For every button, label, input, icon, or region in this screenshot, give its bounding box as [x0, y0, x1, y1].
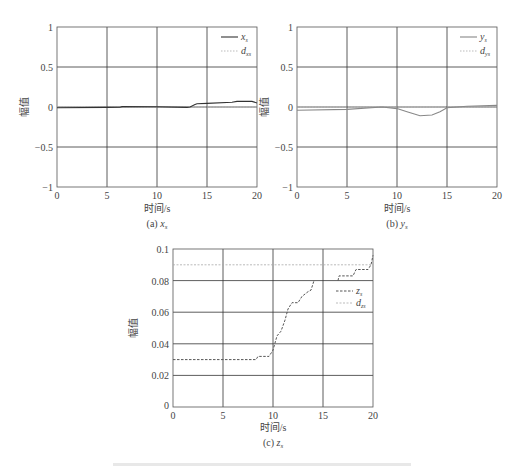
- svg-text:10: 10: [152, 190, 162, 201]
- legend-entry-d-xs: dxs: [241, 45, 252, 57]
- svg-text:−1: −1: [282, 182, 293, 193]
- caption-b: (b) ys: [386, 218, 408, 231]
- y-ticks-b: 1 0.5 0 −0.5 −1: [275, 22, 293, 193]
- panel-c: 0.1 0.08 0.06 0.04 0.02 0 0 5 10 15 20 时…: [127, 244, 378, 450]
- y-axis-label-b: 幅值: [258, 97, 270, 117]
- legend-entry-x-s: xs: [240, 31, 248, 43]
- svg-text:0: 0: [164, 400, 169, 411]
- figure-caption-faded: [113, 463, 411, 466]
- svg-text:0: 0: [295, 190, 300, 201]
- svg-text:20: 20: [252, 190, 262, 201]
- x-axis-label-c: 时间/s: [260, 421, 287, 433]
- series-z-s: [173, 281, 314, 360]
- figure: 1 0.5 0 −0.5 −1 0 5 10 15 20 时间/s 幅值 xs …: [0, 0, 523, 470]
- y-axis-label-c: 幅值: [127, 318, 139, 338]
- caption-a: (a) xs: [147, 218, 168, 231]
- x-ticks-c: 0 5 10 15 20: [171, 410, 379, 421]
- x-axis-label-b: 时间/s: [384, 202, 411, 214]
- x-axis-label-a: 时间/s: [144, 202, 171, 214]
- svg-text:0.08: 0.08: [152, 276, 170, 287]
- svg-text:0.04: 0.04: [152, 339, 170, 350]
- svg-text:0.5: 0.5: [281, 62, 294, 73]
- svg-text:−0.5: −0.5: [275, 142, 293, 153]
- svg-text:0: 0: [48, 102, 53, 113]
- svg-text:15: 15: [318, 410, 328, 421]
- y-ticks-c: 0.1 0.08 0.06 0.04 0.02 0: [152, 244, 170, 411]
- svg-text:1: 1: [288, 22, 293, 33]
- panel-b: 1 0.5 0 −0.5 −1 0 5 10 15 20 时间/s 幅值 ys …: [258, 22, 502, 231]
- series-z-s-late: [338, 255, 373, 280]
- legend-c: zs dzs: [336, 285, 366, 309]
- svg-text:1: 1: [48, 22, 53, 33]
- grid-c: [173, 249, 373, 407]
- legend-entry-d-ys: dys: [480, 45, 491, 57]
- svg-text:0.02: 0.02: [152, 370, 170, 381]
- svg-text:0: 0: [171, 410, 176, 421]
- legend-b: ys dys: [460, 31, 491, 57]
- svg-text:20: 20: [492, 190, 502, 201]
- svg-text:5: 5: [105, 190, 110, 201]
- legend-entry-d-zs: dzs: [356, 297, 366, 309]
- svg-text:15: 15: [442, 190, 452, 201]
- svg-text:0: 0: [288, 102, 293, 113]
- svg-text:0.1: 0.1: [157, 244, 170, 255]
- legend-a: xs dxs: [221, 31, 252, 57]
- svg-text:−0.5: −0.5: [35, 142, 53, 153]
- svg-text:5: 5: [221, 410, 226, 421]
- x-ticks-b: 0 5 10 15 20: [295, 190, 503, 201]
- panel-a: 1 0.5 0 −0.5 −1 0 5 10 15 20 时间/s 幅值 xs …: [18, 22, 262, 231]
- y-ticks-a: 1 0.5 0 −0.5 −1: [35, 22, 53, 193]
- legend-entry-y-s: ys: [479, 31, 487, 43]
- x-ticks-a: 0 5 10 15 20: [55, 190, 263, 201]
- svg-text:20: 20: [368, 410, 378, 421]
- svg-text:15: 15: [202, 190, 212, 201]
- svg-text:5: 5: [345, 190, 350, 201]
- svg-text:−1: −1: [42, 182, 53, 193]
- legend-entry-z-s: zs: [355, 285, 363, 297]
- svg-text:0.5: 0.5: [41, 62, 54, 73]
- y-axis-label-a: 幅值: [18, 97, 30, 117]
- svg-text:0: 0: [55, 190, 60, 201]
- svg-text:0.06: 0.06: [152, 307, 170, 318]
- svg-text:10: 10: [268, 410, 278, 421]
- svg-text:10: 10: [392, 190, 402, 201]
- caption-c: (c) zs: [263, 437, 284, 450]
